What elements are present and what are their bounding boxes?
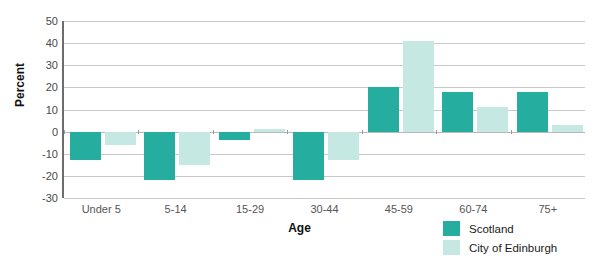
bar[interactable] xyxy=(552,125,583,132)
bar[interactable] xyxy=(517,92,548,132)
y-axis-tick-label: -10 xyxy=(32,149,58,160)
bar[interactable] xyxy=(328,132,359,161)
x-axis-tickmark xyxy=(138,130,139,134)
bar-group: 60-74 xyxy=(436,21,510,198)
bar[interactable] xyxy=(144,132,175,181)
x-axis-tick-label: 30-44 xyxy=(287,203,361,215)
legend-item[interactable]: City of Edinburgh xyxy=(443,238,557,257)
x-axis-tick-label: 5-14 xyxy=(138,203,212,215)
bar[interactable] xyxy=(403,41,434,132)
gridline xyxy=(64,198,585,199)
bar-group: 30-44 xyxy=(287,21,361,198)
x-axis-tick-label: 15-29 xyxy=(213,203,287,215)
x-axis-tickmark xyxy=(511,130,512,134)
x-axis-tick-label: 45-59 xyxy=(362,203,436,215)
bar[interactable] xyxy=(293,132,324,181)
bar-group: 15-29 xyxy=(213,21,287,198)
chart-legend: ScotlandCity of Edinburgh xyxy=(443,219,557,257)
legend-label: Scotland xyxy=(469,223,514,235)
y-axis-tick-label: 30 xyxy=(32,60,58,71)
y-axis-tick-label: 50 xyxy=(32,16,58,27)
legend-swatch-icon xyxy=(443,221,460,236)
bar[interactable] xyxy=(219,132,250,141)
y-axis-tick-label: 40 xyxy=(32,38,58,49)
bar[interactable] xyxy=(368,87,399,131)
bar[interactable] xyxy=(105,132,136,145)
bar[interactable] xyxy=(254,129,285,131)
legend-item[interactable]: Scotland xyxy=(443,219,557,238)
y-axis-tick-label: 20 xyxy=(32,82,58,93)
bar[interactable] xyxy=(477,107,508,131)
x-axis-tickmark xyxy=(362,130,363,134)
x-axis-tickmark xyxy=(213,130,214,134)
x-axis-tickmark xyxy=(287,130,288,134)
x-axis-tickmark xyxy=(64,130,65,134)
x-axis-tick-label: 60-74 xyxy=(436,203,510,215)
chart-container: Percent 50403020100-10-20-30 Under 55-14… xyxy=(0,0,599,265)
bar-group: 5-14 xyxy=(138,21,212,198)
bar[interactable] xyxy=(179,132,210,165)
legend-swatch-icon xyxy=(443,240,460,255)
y-axis-tick-label: 0 xyxy=(32,127,58,138)
plot-area: Under 55-1415-2930-4445-5960-7475+ xyxy=(62,21,583,198)
legend-label: City of Edinburgh xyxy=(469,242,557,254)
y-axis-tick-labels: 50403020100-10-20-30 xyxy=(28,21,58,198)
x-axis-tickmark xyxy=(436,130,437,134)
bar[interactable] xyxy=(70,132,101,161)
bar-group: 45-59 xyxy=(362,21,436,198)
y-axis-tick-label: -30 xyxy=(32,193,58,204)
bar[interactable] xyxy=(442,92,473,132)
y-axis-tick-label: -20 xyxy=(32,171,58,182)
chart-title xyxy=(0,0,599,1)
y-axis-title: Percent xyxy=(13,25,27,145)
bar-group: 75+ xyxy=(511,21,585,198)
x-axis-tick-label: 75+ xyxy=(511,203,585,215)
y-axis-tick-label: 10 xyxy=(32,105,58,116)
bar-group: Under 5 xyxy=(64,21,138,198)
x-axis-tick-label: Under 5 xyxy=(64,203,138,215)
